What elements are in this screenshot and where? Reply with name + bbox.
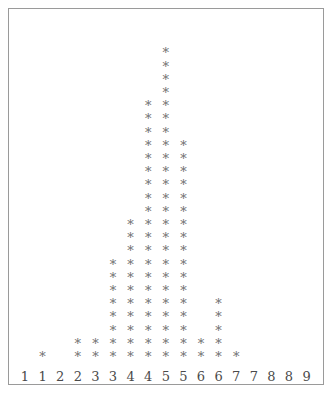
plot-frame: ****************************************…: [8, 8, 324, 385]
x-tick-label: 9: [297, 369, 317, 384]
x-axis-tick-labels: 11223344556677889: [9, 9, 325, 386]
figure-canvas: ****************************************…: [0, 0, 333, 393]
